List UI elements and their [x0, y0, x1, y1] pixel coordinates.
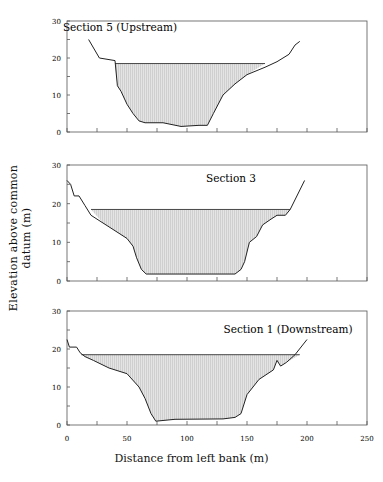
panel-section-1: 0102030050100150200250Section 1 (Downstr… [52, 308, 374, 443]
y-tick-label: 20 [52, 55, 61, 63]
y-tick-label: 20 [52, 201, 61, 209]
x-tick-label: 200 [300, 435, 313, 443]
section-title: Section 5 (Upstream) [63, 21, 177, 33]
panel-section-5: 0102030Section 5 (Upstream) [52, 18, 367, 137]
water-area [115, 64, 265, 127]
cross-section-figure: 0102030Section 5 (Upstream)0102030Sectio… [0, 0, 383, 482]
x-axis-label: Distance from left bank (m) [0, 452, 383, 465]
y-tick-label: 10 [52, 239, 61, 247]
y-axis-label: Elevation above common datum (m) [7, 148, 33, 328]
panel-section-3: 0102030Section 3 [52, 162, 367, 286]
y-tick-label: 0 [57, 278, 61, 286]
x-tick-label: 100 [180, 435, 193, 443]
y-tick-label: 30 [52, 308, 61, 316]
water-area [81, 355, 299, 422]
y-tick-label: 30 [52, 162, 61, 170]
y-tick-label: 0 [57, 129, 61, 137]
section-title: Section 1 (Downstream) [223, 323, 352, 335]
water-area [91, 209, 290, 274]
y-tick-label: 10 [52, 384, 61, 392]
x-tick-label: 250 [360, 435, 373, 443]
y-tick-label: 20 [52, 346, 61, 354]
y-tick-label: 0 [57, 422, 61, 430]
x-tick-label: 150 [240, 435, 253, 443]
y-tick-label: 30 [52, 18, 61, 26]
y-tick-label: 10 [52, 92, 61, 100]
section-title: Section 3 [206, 172, 256, 184]
x-tick-label: 50 [123, 435, 132, 443]
x-tick-label: 0 [65, 435, 69, 443]
